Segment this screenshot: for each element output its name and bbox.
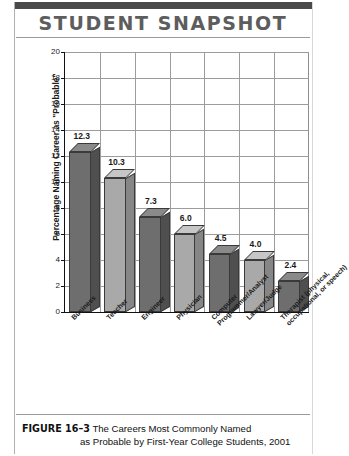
gridline-horizontal	[65, 78, 309, 79]
gridline-vertical	[204, 52, 205, 312]
top-decorative-band	[14, 2, 312, 9]
caption-divider	[16, 414, 310, 415]
page-title: STUDENT SNAPSHOT	[14, 12, 312, 34]
bar-2: 10.3	[104, 178, 126, 312]
y-tick-label: 0	[56, 308, 60, 316]
bar-value-label: 2.4	[284, 260, 296, 270]
bar-value-label: 12.3	[73, 131, 90, 141]
y-tick-mark	[61, 104, 65, 105]
bar-side-face	[91, 147, 100, 312]
gridline-horizontal	[65, 182, 309, 183]
bar-value-label: 7.3	[145, 196, 157, 206]
y-tick-label: 4	[56, 256, 60, 264]
gridline-horizontal	[65, 130, 309, 131]
y-tick-label: 6	[56, 230, 60, 238]
y-tick-mark	[61, 130, 65, 131]
y-tick-mark	[61, 156, 65, 157]
bar-1: 12.3	[69, 152, 91, 312]
y-tick-mark	[61, 260, 65, 261]
gridline-vertical	[274, 52, 275, 312]
caption-line-2: as Probable by First-Year College Studen…	[80, 435, 310, 448]
y-tick-label: 14	[51, 126, 60, 134]
y-tick-mark	[61, 234, 65, 235]
figure-caption: FIGURE 16–3 The Careers Most Commonly Na…	[22, 422, 310, 448]
bar-value-label: 4.5	[215, 233, 227, 243]
title-divider	[16, 37, 310, 38]
caption-line-1: The Careers Most Commonly Named	[92, 423, 251, 434]
bar-value-label: 4.0	[250, 239, 262, 249]
y-tick-label: 8	[56, 204, 60, 212]
bar-front-face	[104, 178, 126, 312]
plot-area: 0246810121416182012.310.37.36.04.54.02.4	[64, 52, 309, 313]
y-tick-label: 20	[51, 48, 60, 56]
y-tick-label: 2	[56, 282, 60, 290]
gridline-horizontal	[65, 104, 309, 105]
figure-number: FIGURE 16–3	[22, 423, 90, 434]
chart-container: Percentage Naming Career as "Probable" 0…	[14, 44, 312, 406]
y-tick-label: 10	[51, 178, 60, 186]
bar-front-face	[69, 152, 91, 312]
y-tick-mark	[61, 78, 65, 79]
bar-value-label: 10.3	[108, 157, 125, 167]
y-tick-mark	[61, 286, 65, 287]
y-tick-mark	[61, 182, 65, 183]
gridline-horizontal	[65, 52, 309, 53]
y-tick-mark	[61, 208, 65, 209]
gridline-horizontal	[65, 156, 309, 157]
bar-side-face	[126, 173, 135, 312]
bar-value-label: 6.0	[180, 213, 192, 223]
y-tick-label: 16	[51, 100, 60, 108]
y-tick-mark	[61, 312, 65, 313]
gridline-horizontal	[65, 208, 309, 209]
y-tick-label: 12	[51, 152, 60, 160]
y-tick-label: 18	[51, 74, 60, 82]
y-tick-mark	[61, 52, 65, 53]
x-axis-labels: BusinessTeacherEngineerPhysicianComputer…	[64, 316, 324, 406]
gridline-vertical	[239, 52, 240, 312]
